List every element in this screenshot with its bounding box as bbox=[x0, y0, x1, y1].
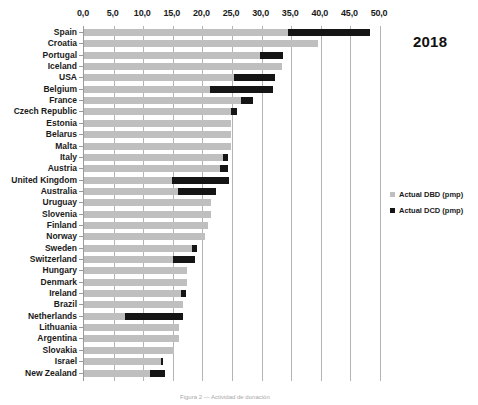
bar-row bbox=[84, 357, 380, 367]
bar-segment-dcd bbox=[220, 165, 229, 172]
bar-segment-dbd bbox=[84, 324, 179, 331]
x-tick-label: 30,0 bbox=[252, 8, 269, 18]
bar-row bbox=[84, 198, 380, 208]
bar-segment-dbd bbox=[84, 29, 288, 36]
bar-row bbox=[84, 334, 380, 344]
y-tick-label: Austria bbox=[48, 163, 77, 173]
y-tick-label: Brazil bbox=[54, 299, 77, 309]
x-tick-label: 20,0 bbox=[193, 8, 210, 18]
bar-segment-dbd bbox=[84, 154, 223, 161]
bar-segment-dbd bbox=[84, 199, 211, 206]
bar-row bbox=[84, 153, 380, 163]
bar-row bbox=[84, 221, 380, 231]
bar-segment-dbd bbox=[84, 335, 179, 342]
bar-segment-dcd bbox=[260, 52, 283, 59]
bar-segment-dbd bbox=[84, 188, 178, 195]
bar-segment-dbd bbox=[84, 347, 174, 354]
y-tick-label: Sweden bbox=[45, 243, 77, 253]
bar-segment-dbd bbox=[84, 120, 231, 127]
bar-segment-dbd bbox=[84, 52, 260, 59]
y-tick-label: Australia bbox=[41, 186, 77, 196]
legend-swatch-icon bbox=[390, 192, 395, 197]
bar-segment-dcd bbox=[241, 97, 253, 104]
y-tick-label: Netherlands bbox=[28, 311, 77, 321]
donation-rates-bar-chart: 0,05,010,015,020,025,030,035,040,045,050… bbox=[0, 0, 478, 405]
bar-row bbox=[84, 266, 380, 276]
x-tick-label: 10,0 bbox=[134, 8, 151, 18]
year-annotation: 2018 bbox=[413, 33, 447, 50]
bar-segment-dbd bbox=[84, 177, 172, 184]
y-tick-label: Finland bbox=[47, 220, 77, 230]
bar-segment-dbd bbox=[84, 290, 181, 297]
bar-row bbox=[84, 255, 380, 265]
bar-segment-dbd bbox=[84, 74, 234, 81]
legend-item[interactable]: Actual DCD (pmp) bbox=[390, 204, 478, 217]
bar-row bbox=[84, 244, 380, 254]
x-tick-label: 50,0 bbox=[371, 8, 388, 18]
chart-legend: Actual DBD (pmp)Actual DCD (pmp) bbox=[390, 188, 478, 220]
x-tick-label: 5,0 bbox=[107, 8, 119, 18]
bar-row bbox=[84, 164, 380, 174]
bar-segment-dcd bbox=[161, 358, 163, 365]
bar-segment-dbd bbox=[84, 222, 208, 229]
bar-segment-dbd bbox=[84, 245, 192, 252]
y-tick-label: Czech Republic bbox=[14, 106, 77, 116]
y-tick-label: USA bbox=[59, 72, 77, 82]
x-axis-tick-labels: 0,05,010,015,020,025,030,035,040,045,050… bbox=[0, 8, 478, 22]
bar-segment-dbd bbox=[84, 279, 187, 286]
bar-segment-dcd bbox=[231, 108, 236, 115]
y-tick-label: Switzerland bbox=[30, 254, 77, 264]
bar-row bbox=[84, 119, 380, 129]
y-tick-label: Estonia bbox=[46, 118, 77, 128]
bottom-caption: Figura 2 — Actividad de donación bbox=[180, 394, 270, 403]
bar-row bbox=[84, 346, 380, 356]
bar-row bbox=[84, 73, 380, 83]
y-tick-label: Slovakia bbox=[43, 345, 78, 355]
bar-row bbox=[84, 232, 380, 242]
y-tick-label: Israel bbox=[55, 356, 77, 366]
bar-segment-dbd bbox=[84, 267, 187, 274]
y-tick-label: France bbox=[49, 95, 77, 105]
bar-segment-dbd bbox=[84, 358, 161, 365]
y-tick-label: Denmark bbox=[41, 277, 77, 287]
bar-segment-dbd bbox=[84, 63, 282, 70]
bar-row bbox=[84, 107, 380, 117]
x-tick-label: 35,0 bbox=[282, 8, 299, 18]
bar-segment-dbd bbox=[84, 97, 241, 104]
y-tick-label: New Zealand bbox=[25, 368, 77, 378]
bar-row bbox=[84, 176, 380, 186]
x-tick-label: 45,0 bbox=[341, 8, 358, 18]
bar-row bbox=[84, 51, 380, 61]
y-axis-category-labels: SpainCroatiaPortugalIcelandUSABelgiumFra… bbox=[0, 26, 80, 381]
bar-segment-dcd bbox=[178, 188, 216, 195]
x-tick-label: 25,0 bbox=[223, 8, 240, 18]
bar-segment-dcd bbox=[181, 290, 186, 297]
x-tick-label: 15,0 bbox=[163, 8, 180, 18]
y-tick-label: Portugal bbox=[43, 50, 77, 60]
bar-segment-dbd bbox=[84, 143, 231, 150]
y-tick-label: Iceland bbox=[48, 61, 77, 71]
bar-segment-dcd bbox=[223, 154, 228, 161]
bar-row bbox=[84, 289, 380, 299]
bar-row bbox=[84, 312, 380, 322]
y-tick-label: Uruguay bbox=[43, 197, 77, 207]
bar-segment-dbd bbox=[84, 313, 125, 320]
bar-segment-dbd bbox=[84, 256, 173, 263]
legend-item[interactable]: Actual DBD (pmp) bbox=[390, 188, 478, 201]
x-tick-label: 0,0 bbox=[77, 8, 89, 18]
bar-segment-dbd bbox=[84, 233, 205, 240]
bar-row bbox=[84, 323, 380, 333]
y-tick-label: Malta bbox=[55, 141, 77, 151]
bar-segment-dcd bbox=[192, 245, 197, 252]
bar-row bbox=[84, 85, 380, 95]
y-tick-label: Belarus bbox=[46, 129, 77, 139]
bar-segment-dbd bbox=[84, 211, 211, 218]
plot-area bbox=[83, 26, 380, 381]
bar-row bbox=[84, 369, 380, 379]
bar-segment-dbd bbox=[84, 165, 220, 172]
y-tick-label: Slovenia bbox=[42, 209, 77, 219]
bar-row bbox=[84, 130, 380, 140]
legend-label: Actual DCD (pmp) bbox=[399, 206, 463, 215]
bar-segment-dcd bbox=[173, 256, 195, 263]
bar-segment-dbd bbox=[84, 370, 150, 377]
